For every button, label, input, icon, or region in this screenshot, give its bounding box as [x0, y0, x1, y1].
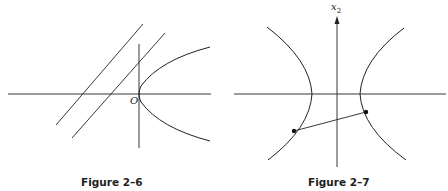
figure-2-6-diagram: [0, 0, 448, 191]
fig7-point-right: [364, 110, 368, 114]
fig6-origin-label: O: [130, 95, 138, 106]
fig7-segment: [294, 112, 366, 131]
figure-2-6-caption: Figure 2–6: [81, 176, 143, 188]
fig7-point-left: [292, 129, 296, 133]
fig7-axis-label-sub: 2: [337, 7, 341, 15]
fig7-left-branch: [267, 27, 312, 160]
fig6-line-2: [72, 33, 165, 138]
figure-2-7-caption: Figure 2–7: [308, 176, 370, 188]
fig6-line-1: [56, 24, 143, 125]
fig7-arrow-icon: [335, 16, 340, 24]
fig7-axis-label: x2: [331, 1, 341, 15]
